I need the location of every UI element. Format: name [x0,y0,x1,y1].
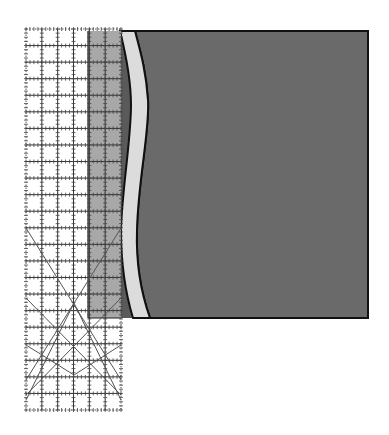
quilting-illustration [0,0,389,435]
fabric-panel [135,31,368,318]
ruler-overlap-shade [88,31,121,318]
